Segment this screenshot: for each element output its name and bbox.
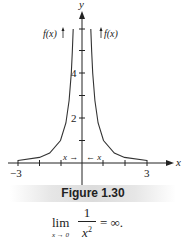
- curve-left-branch: [18, 29, 73, 161]
- lim-subscript: x → 0: [52, 231, 69, 239]
- fx-right-label: f(x): [104, 28, 119, 40]
- numerator: 1: [78, 206, 96, 220]
- fx-left-label: f(x): [43, 28, 58, 40]
- lim-text: lim: [52, 215, 69, 231]
- fraction-bar: [78, 221, 96, 222]
- x-tick-label-3: 3: [144, 167, 150, 179]
- y-axis-label: y: [78, 0, 84, 10]
- x-axis-arrow-icon: [166, 160, 174, 166]
- curve-right-branch: [91, 29, 147, 161]
- y-axis-arrow-icon: [79, 11, 85, 19]
- denominator: x2: [78, 223, 96, 240]
- x-approach-left-label: ← x: [86, 152, 101, 162]
- x-tick-label-neg3: −3: [10, 167, 22, 179]
- denominator-exponent: 2: [88, 225, 92, 234]
- up-arrow-right-icon: [100, 27, 103, 38]
- up-arrow-left-icon: [62, 27, 65, 38]
- equals-infinity: = ∞.: [100, 215, 123, 231]
- chart-plot: x y −3 3 2 4 f(x) f(x) x → ← x: [0, 0, 186, 185]
- y-tick-label-2: 2: [71, 112, 77, 124]
- limit-formula: lim x → 0 1 x2 = ∞.: [52, 206, 172, 242]
- x-approach-right-label: x →: [62, 152, 78, 162]
- x-axis-label: x: [175, 156, 181, 168]
- figure-caption: Figure 1.30: [0, 186, 186, 200]
- fraction: 1 x2: [78, 206, 96, 240]
